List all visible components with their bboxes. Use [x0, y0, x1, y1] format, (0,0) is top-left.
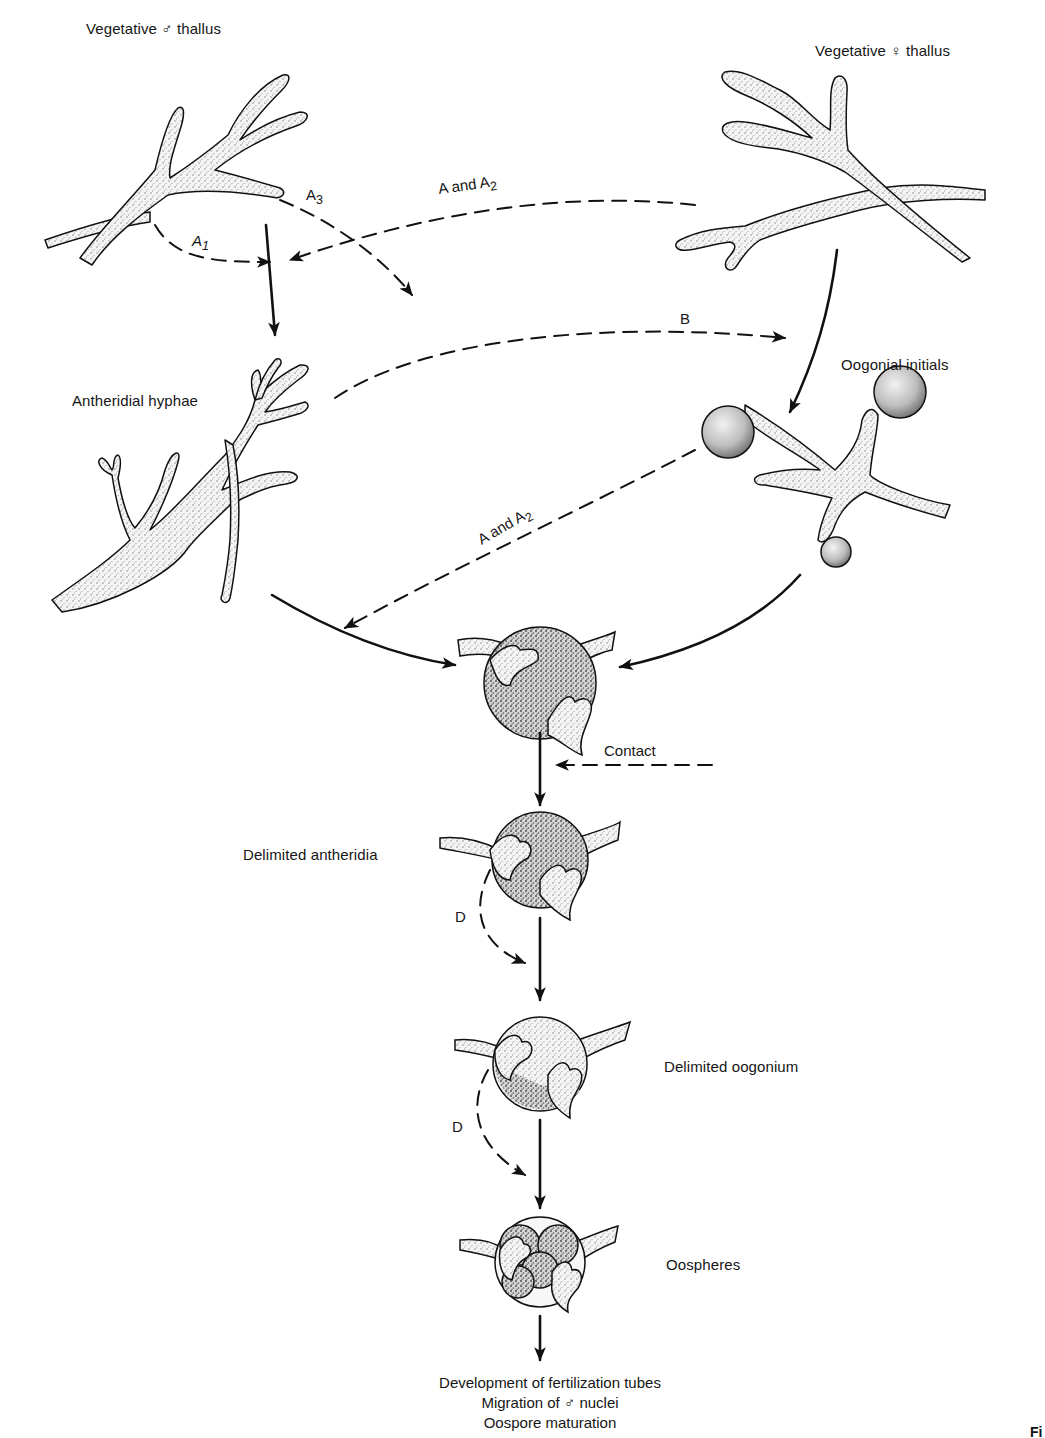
label-d1: D	[455, 908, 466, 925]
delimited-antheridia-illustration	[440, 812, 620, 920]
figure-tag: Fi	[1030, 1424, 1042, 1438]
arrow-antheridial-to-contact	[272, 595, 455, 665]
arrow-a3	[280, 200, 412, 295]
label-delimited-oogonium: Delimited oogonium	[664, 1058, 798, 1075]
arrow-b	[335, 332, 785, 398]
a3-main: A	[306, 186, 316, 203]
outcome-line-1: Development of fertilization tubes	[380, 1373, 720, 1393]
contact-stage-illustration	[458, 627, 615, 755]
delimited-oogonium-illustration	[455, 1017, 630, 1118]
diagram-canvas	[0, 0, 1045, 1438]
label-d2: D	[452, 1118, 463, 1135]
label-female-thallus: Vegetative ♀ thallus	[815, 42, 950, 59]
outcome-line-3: Oospore maturation	[380, 1413, 720, 1433]
label-a1: A1	[192, 232, 209, 253]
solid-arrows	[266, 225, 837, 1360]
a3-sub: 3	[316, 193, 323, 207]
label-antheridial-hyphae: Antheridial hyphae	[72, 392, 198, 409]
label-delimited-antheridia: Delimited antheridia	[243, 846, 378, 863]
label-contact: Contact	[604, 742, 656, 759]
label-a3: A3	[306, 186, 323, 207]
arrow-oogonial-to-contact	[620, 575, 800, 667]
a1-main: A	[192, 232, 202, 249]
dashed-arrows	[155, 200, 785, 1175]
arrow-male-to-antheridial	[266, 225, 275, 335]
outcome-line-2: Migration of ♂ nuclei	[380, 1393, 720, 1413]
label-male-thallus: Vegetative ♂ thallus	[86, 20, 221, 37]
oogonial-initials-illustration	[702, 366, 950, 567]
label-b: B	[680, 310, 690, 327]
outcome-text: Development of fertilization tubes Migra…	[380, 1225, 720, 1433]
arrow-a1	[155, 225, 270, 262]
label-oogonial-initials: Oogonial initials	[841, 356, 949, 373]
arrow-a-and-a2-top	[290, 201, 695, 260]
female-thallus-illustration	[676, 71, 985, 270]
arrow-a-and-a2-mid	[345, 450, 695, 628]
a1-sub: 1	[202, 239, 209, 253]
arrow-female-to-oogonial	[790, 250, 837, 412]
